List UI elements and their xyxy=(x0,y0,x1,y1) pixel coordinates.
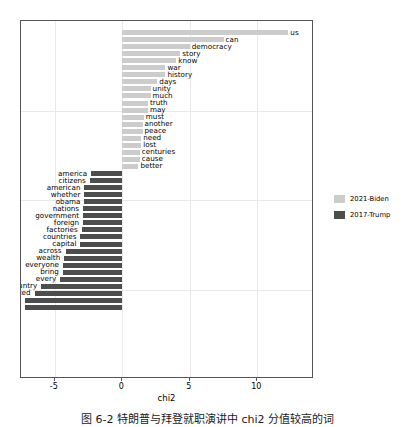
bar-factories[interactable] xyxy=(82,227,123,232)
legend-label-biden: 2021-Biden xyxy=(350,195,389,203)
bar-row: centuries xyxy=(21,149,312,156)
bar-unity[interactable] xyxy=(122,86,150,91)
bar-america[interactable] xyxy=(91,171,122,176)
bar-row: may xyxy=(21,107,312,114)
x-tick-mark xyxy=(121,378,122,381)
x-tick-mark xyxy=(256,378,257,381)
bar-label-know: know xyxy=(178,57,197,64)
bar-row: dreams xyxy=(21,297,312,304)
bar-countries[interactable] xyxy=(80,234,122,239)
bar-must[interactable] xyxy=(122,115,144,120)
bar-row: us xyxy=(21,29,312,36)
figure-caption: 图 6-2 特朗普与拜登就职演讲中 chi2 分值较高的词 xyxy=(0,410,415,426)
bar-row: bring xyxy=(21,269,312,276)
bar-truth[interactable] xyxy=(122,101,148,106)
bar-row: another xyxy=(21,121,312,128)
legend-label-trump: 2017-Trump xyxy=(350,211,390,219)
bar-whether[interactable] xyxy=(84,192,122,197)
bar-row: cause xyxy=(21,156,312,163)
bar-row: can xyxy=(21,36,312,43)
bar-dreams[interactable] xyxy=(25,298,122,303)
bar-label-every: every xyxy=(36,275,56,282)
x-tick-label: 0 xyxy=(119,382,124,391)
bar-american[interactable] xyxy=(84,185,122,190)
bar-citizens[interactable] xyxy=(90,178,122,183)
bar-label-protected: protected xyxy=(20,289,31,296)
bar-row: everyone xyxy=(21,262,312,269)
bar-every[interactable] xyxy=(60,277,122,282)
bar-capital[interactable] xyxy=(80,242,122,247)
x-tick-mark xyxy=(54,378,55,381)
bar-country[interactable] xyxy=(41,284,122,289)
bar-back[interactable] xyxy=(25,305,122,310)
legend-item-trump[interactable]: 2017-Trump xyxy=(334,208,412,221)
x-tick-label: -5 xyxy=(50,382,58,391)
bar-row: truth xyxy=(21,100,312,107)
bar-peace[interactable] xyxy=(122,129,142,134)
bar-wealth[interactable] xyxy=(64,256,122,261)
bar-centuries[interactable] xyxy=(122,150,140,155)
bar-row: wealth xyxy=(21,255,312,262)
bar-row: back xyxy=(21,304,312,311)
bar-story[interactable] xyxy=(122,51,180,56)
bar-protected[interactable] xyxy=(35,291,123,296)
bar-may[interactable] xyxy=(122,108,148,113)
bar-row: across xyxy=(21,248,312,255)
chart-legend: 2021-Biden 2017-Trump xyxy=(334,192,412,224)
bar-much[interactable] xyxy=(122,93,150,98)
legend-swatch-trump xyxy=(334,211,345,219)
bar-label-better: better xyxy=(140,162,162,169)
bar-another[interactable] xyxy=(122,122,142,127)
bar-row: need xyxy=(21,135,312,142)
bar-row: capital xyxy=(21,241,312,248)
legend-item-biden[interactable]: 2021-Biden xyxy=(334,192,412,205)
bar-row: country xyxy=(21,283,312,290)
bar-lost[interactable] xyxy=(122,143,141,148)
bar-across[interactable] xyxy=(66,249,123,254)
x-tick-label: 5 xyxy=(186,382,191,391)
bar-foreign[interactable] xyxy=(83,220,122,225)
x-axis-title: chi2 xyxy=(20,393,313,403)
bar-us[interactable] xyxy=(122,30,288,35)
bar-everyone[interactable] xyxy=(63,263,122,268)
bar-row: protected xyxy=(21,290,312,297)
bar-obama[interactable] xyxy=(84,199,122,204)
bar-nations[interactable] xyxy=(83,206,122,211)
chart-figure: uscandemocracystoryknowwarhistorydaysuni… xyxy=(0,0,415,427)
bar-label-us: us xyxy=(290,29,298,36)
bar-bring[interactable] xyxy=(63,270,122,275)
bar-row: story xyxy=(21,50,312,57)
x-tick-mark xyxy=(189,378,190,381)
bar-government[interactable] xyxy=(83,213,122,218)
bar-cause[interactable] xyxy=(122,157,140,162)
bar-democracy[interactable] xyxy=(122,44,190,49)
bar-label-back: back xyxy=(20,303,21,310)
bar-row: democracy xyxy=(21,43,312,50)
legend-swatch-biden xyxy=(334,195,345,203)
bar-better[interactable] xyxy=(122,164,138,169)
plot-area: uscandemocracystoryknowwarhistorydaysuni… xyxy=(20,20,313,378)
bar-need[interactable] xyxy=(122,136,141,141)
bar-row: peace xyxy=(21,128,312,135)
bar-row: every xyxy=(21,276,312,283)
bar-war[interactable] xyxy=(122,65,165,70)
x-tick-label: 10 xyxy=(251,382,261,391)
